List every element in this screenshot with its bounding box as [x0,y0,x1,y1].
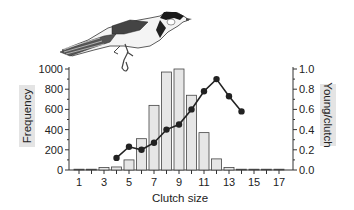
frequency-bar [274,169,284,170]
young-per-clutch-point [201,88,207,94]
young-per-clutch-point [238,108,244,114]
right-y-tick-label: 0.0 [299,164,314,176]
right-y-tick-label: 0.6 [299,103,314,115]
frequency-bar [249,169,259,170]
left-y-tick-label: 600 [45,103,63,115]
young-per-clutch-point [113,155,119,161]
chart-plot: 02004006008001000 0.00.20.40.60.81.0 135… [0,0,354,210]
right-y-tick-label: 1.0 [299,63,314,75]
x-tick-label: 9 [176,176,182,188]
right-y-tick-label: 0.8 [299,83,314,95]
x-tick-label: 5 [126,176,132,188]
young-per-clutch-point [163,126,169,132]
right-y-axis: 0.00.20.40.60.81.0 [293,63,314,176]
right-y-axis-title: Young/clutch [322,82,334,147]
x-tick-label: 13 [223,176,235,188]
frequency-bar [212,159,222,170]
x-tick-label: 1 [76,176,82,188]
x-tick-label: 11 [198,176,209,188]
young-per-clutch-point [126,144,132,150]
left-y-tick-label: 0 [57,164,63,176]
right-y-tick-label: 0.4 [299,124,314,136]
x-axis: 1357911131517 [69,170,293,188]
frequency-bar [112,167,122,170]
young-per-clutch-point [213,76,219,82]
x-tick-label: 7 [151,176,157,188]
left-y-tick-label: 1000 [39,63,63,75]
frequency-bar [162,72,172,170]
chart: 02004006008001000 0.00.20.40.60.81.0 135… [0,0,354,210]
frequency-bar [199,133,209,170]
x-axis-title: Clutch size [152,192,208,204]
young-per-clutch-point [188,106,194,112]
frequency-bar [74,169,84,170]
left-y-axis: 02004006008001000 [39,63,69,176]
frequency-bar [237,169,247,170]
left-y-tick-label: 800 [45,83,63,95]
x-tick-label: 15 [248,176,260,188]
young-per-clutch-point [176,121,182,127]
x-tick-label: 3 [101,176,107,188]
young-per-clutch-point [151,140,157,146]
young-per-clutch-point [226,93,232,99]
frequency-bar [124,160,134,170]
frequency-bar [99,167,109,170]
left-y-tick-label: 200 [45,144,63,156]
frequency-bar [137,139,147,170]
frequency-bar [224,167,234,170]
bird-illustration-icon [60,12,192,71]
right-y-tick-label: 0.2 [299,144,314,156]
young-per-clutch-point [138,147,144,153]
left-y-axis-title: Frequency [21,89,33,144]
frequency-bar [87,169,97,170]
frequency-bar [262,169,272,170]
frequency-bar [149,105,159,170]
x-tick-label: 17 [273,176,285,188]
left-y-tick-label: 400 [45,124,63,136]
frequency-bars [74,69,284,170]
